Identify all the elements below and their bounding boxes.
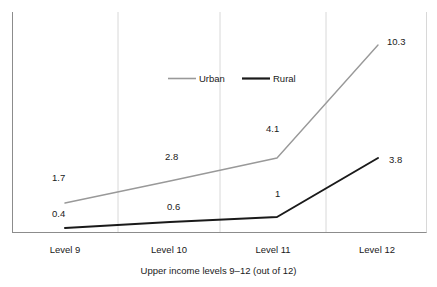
legend-label-rural: Rural — [273, 74, 296, 84]
data-label-rural-level9: 0.4 — [52, 209, 65, 219]
line-chart: 1.7 2.8 4.1 10.3 0.4 0.6 1 3.8 Urban Rur… — [0, 0, 437, 287]
data-label-urban-level10: 2.8 — [165, 152, 178, 162]
data-label-rural-level12: 3.8 — [389, 155, 402, 165]
data-label-urban-level11: 4.1 — [266, 124, 279, 134]
gridlines — [118, 12, 326, 232]
x-tick-label-level-9: Level 9 — [25, 245, 105, 255]
data-label-urban-level9: 1.7 — [52, 173, 65, 183]
data-label-rural-level11: 1 — [275, 189, 280, 199]
series-line-urban — [65, 45, 378, 203]
x-tick-label-level-11: Level 11 — [233, 245, 313, 255]
legend-label-urban: Urban — [199, 74, 225, 84]
x-axis-title: Upper income levels 9–12 (out of 12) — [0, 266, 437, 276]
x-tick-label-level-10: Level 10 — [129, 245, 209, 255]
data-label-rural-level10: 0.6 — [167, 202, 180, 212]
x-tick-label-level-12: Level 12 — [337, 245, 417, 255]
data-label-urban-level12: 10.3 — [387, 37, 406, 47]
